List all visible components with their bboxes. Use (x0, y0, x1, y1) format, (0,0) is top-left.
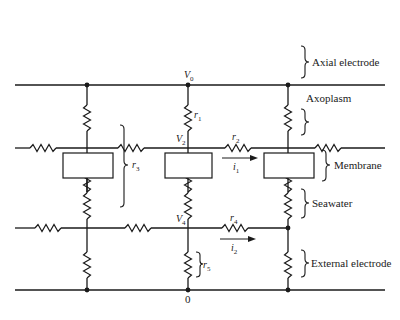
current-arrow-i1 (222, 155, 258, 161)
resistor-label-r4: r4 (230, 212, 238, 226)
branch-right (264, 83, 314, 293)
branch-left (63, 83, 113, 293)
membrane-box-right (264, 153, 314, 178)
brace-axoplasm (301, 109, 309, 135)
current-arrow-i2 (220, 236, 256, 242)
seawater-rail (15, 225, 288, 232)
resistor-label-r3: r3 (132, 159, 140, 173)
membrane-box-middle (165, 153, 212, 178)
resistor-label-r2: r2 (232, 131, 240, 145)
label-seawater: Seawater (312, 197, 353, 209)
membrane-box-left (63, 153, 113, 178)
resistor-label-r5: r5 (203, 259, 211, 273)
junction-dot (186, 288, 191, 293)
circuit-diagram: V0 V2 V4 0 r1 r2 r3 r4 r5 i1 i2 Axial el… (0, 0, 400, 320)
brace-axial-electrode (301, 46, 309, 78)
label-membrane: Membrane (334, 159, 382, 171)
brace-membrane (322, 150, 330, 181)
junction-dot (85, 288, 90, 293)
brace-r3 (120, 125, 128, 207)
junction-dot (286, 288, 291, 293)
node-label-ground: 0 (185, 293, 191, 305)
junction-dot (286, 83, 291, 88)
node-label-v0: V0 (184, 69, 194, 83)
axoplasm-rail (15, 145, 385, 152)
junction-dot (186, 83, 191, 88)
current-label-i1: i1 (233, 161, 240, 175)
brace-seawater (301, 189, 309, 218)
junction-dot (286, 226, 291, 231)
current-label-i2: i2 (231, 242, 238, 256)
node-label-v2: V2 (176, 133, 186, 147)
junction-dot (85, 83, 90, 88)
resistor-label-r1: r1 (194, 109, 202, 123)
brace-r5 (196, 252, 203, 277)
label-external-electrode: External electrode (311, 257, 391, 269)
brace-external-electrode (301, 250, 309, 277)
label-axial-electrode: Axial electrode (312, 56, 380, 68)
label-axoplasm: Axoplasm (306, 92, 352, 104)
node-label-v4: V4 (176, 213, 186, 227)
